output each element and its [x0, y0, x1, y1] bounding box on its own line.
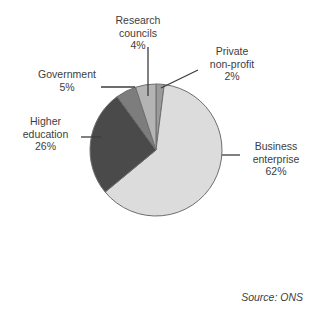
slice-label-research-councils-value: 4%	[101, 39, 175, 52]
slice-label-private-non-profit: Private non-profit 2%	[195, 45, 269, 83]
source-note: Source: ONS	[241, 291, 303, 303]
slice-label-private-non-profit-line1: Private	[195, 45, 269, 58]
slice-label-government-line1: Government	[24, 68, 110, 81]
pie-slices	[90, 84, 222, 216]
slice-label-private-non-profit-value: 2%	[195, 70, 269, 83]
slice-label-business-enterprise-value: 62%	[241, 165, 311, 178]
slice-label-research-councils-line1: Research	[101, 14, 175, 27]
slice-label-government: Government 5%	[24, 68, 110, 93]
slice-label-private-non-profit-line2: non-profit	[195, 58, 269, 71]
slice-label-research-councils: Research councils 4%	[101, 14, 175, 52]
slice-label-higher-education-value: 26%	[8, 140, 83, 153]
slice-label-business-enterprise-line1: Business	[241, 140, 311, 153]
slice-label-higher-education: Higher education 26%	[8, 115, 83, 153]
slice-label-business-enterprise: Business enterprise 62%	[241, 140, 311, 178]
slice-label-business-enterprise-line2: enterprise	[241, 153, 311, 166]
slice-label-higher-education-line1: Higher	[8, 115, 83, 128]
slice-label-higher-education-line2: education	[8, 128, 83, 141]
slice-label-government-value: 5%	[24, 81, 110, 94]
slice-label-research-councils-line2: councils	[101, 27, 175, 40]
leader-line-private-non-profit	[161, 70, 198, 88]
pie-chart-figure: Research councils 4% Private non-profit …	[0, 0, 313, 311]
